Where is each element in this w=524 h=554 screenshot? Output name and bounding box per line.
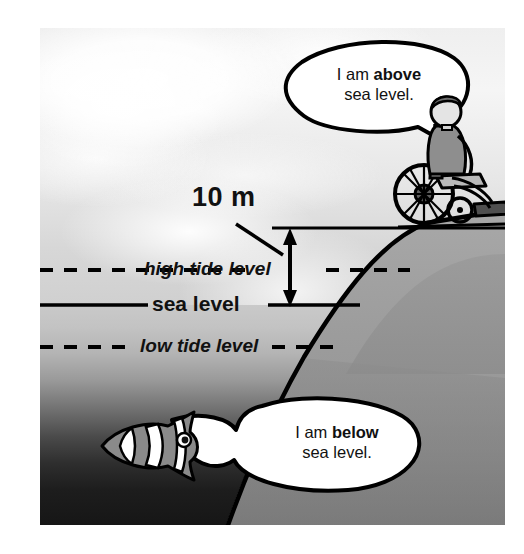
sea-level-scene: 10 m high tide level sea level low tide … xyxy=(40,28,505,525)
clownfish-figure xyxy=(102,412,198,480)
illustration-page: 10 m high tide level sea level low tide … xyxy=(0,0,524,554)
bubble-below-line1: I am below xyxy=(266,422,408,442)
bubble-above-keyword: above xyxy=(374,65,422,83)
bubble-below-line2: sea level. xyxy=(266,442,408,462)
measurement-arrow xyxy=(283,228,297,307)
bubble-above-line2: sea level. xyxy=(308,84,450,104)
bubble-below-line1-pre: I am xyxy=(295,423,332,441)
sea-level-label: sea level xyxy=(152,292,240,316)
low-tide-label: low tide level xyxy=(140,335,258,357)
bubble-below-keyword: below xyxy=(332,423,379,441)
high-tide-label: high tide level xyxy=(144,258,271,280)
bubble-above-line1-pre: I am xyxy=(337,65,374,83)
measurement-label: 10 m xyxy=(192,182,256,213)
bubble-above-text: I am above sea level. xyxy=(308,64,450,104)
bubble-above-line1: I am above xyxy=(308,64,450,84)
bubble-below-text: I am below sea level. xyxy=(266,422,408,462)
